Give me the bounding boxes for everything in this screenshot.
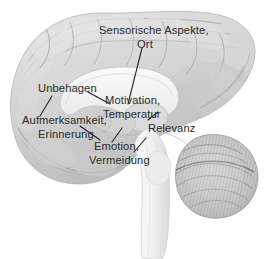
label-motivation-line1: Motivation, [105, 94, 160, 106]
label-emotion-line1: Emotion, [94, 140, 139, 152]
label-emotion-line2: Vermeidung [89, 154, 150, 166]
label-motivation-line2: Temperatur [103, 108, 161, 120]
brainstem [135, 128, 171, 258]
label-sensory-line2: Ort [137, 38, 154, 50]
label-discomfort: Unbehagen [38, 82, 97, 94]
label-relevance: Relevanz [148, 122, 196, 134]
label-attention-line2: Erinnerung [38, 128, 94, 140]
brain-diagram-figure: Sensorische Aspekte, Ort Unbehagen Aufme… [0, 0, 277, 259]
label-attention-line1: Aufmerksamkeit, [22, 114, 107, 126]
brain-illustration: Sensorische Aspekte, Ort Unbehagen Aufme… [0, 0, 277, 259]
label-sensory-line1: Sensorische Aspekte, [99, 24, 209, 36]
